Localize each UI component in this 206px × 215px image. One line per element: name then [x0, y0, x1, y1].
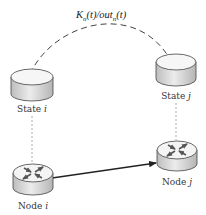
node-j-label: Node j — [162, 177, 192, 187]
state-i-database-icon — [11, 69, 53, 101]
link-arrow-node-i-to-node-j — [52, 163, 156, 178]
state-i-label: State i — [17, 104, 47, 114]
node-j-router-icon — [157, 141, 197, 171]
node-i-label: Node i — [18, 201, 48, 211]
node-i-router-icon — [13, 164, 53, 195]
dashed-transfer-edge — [30, 24, 172, 74]
edge-label: Kn(t)/outn(t) — [75, 9, 127, 23]
state-j-label: State j — [161, 91, 191, 101]
diagram-canvas: Kn(t)/outn(t) State i State j Node i Nod… — [0, 0, 206, 215]
state-j-database-icon — [156, 54, 196, 86]
